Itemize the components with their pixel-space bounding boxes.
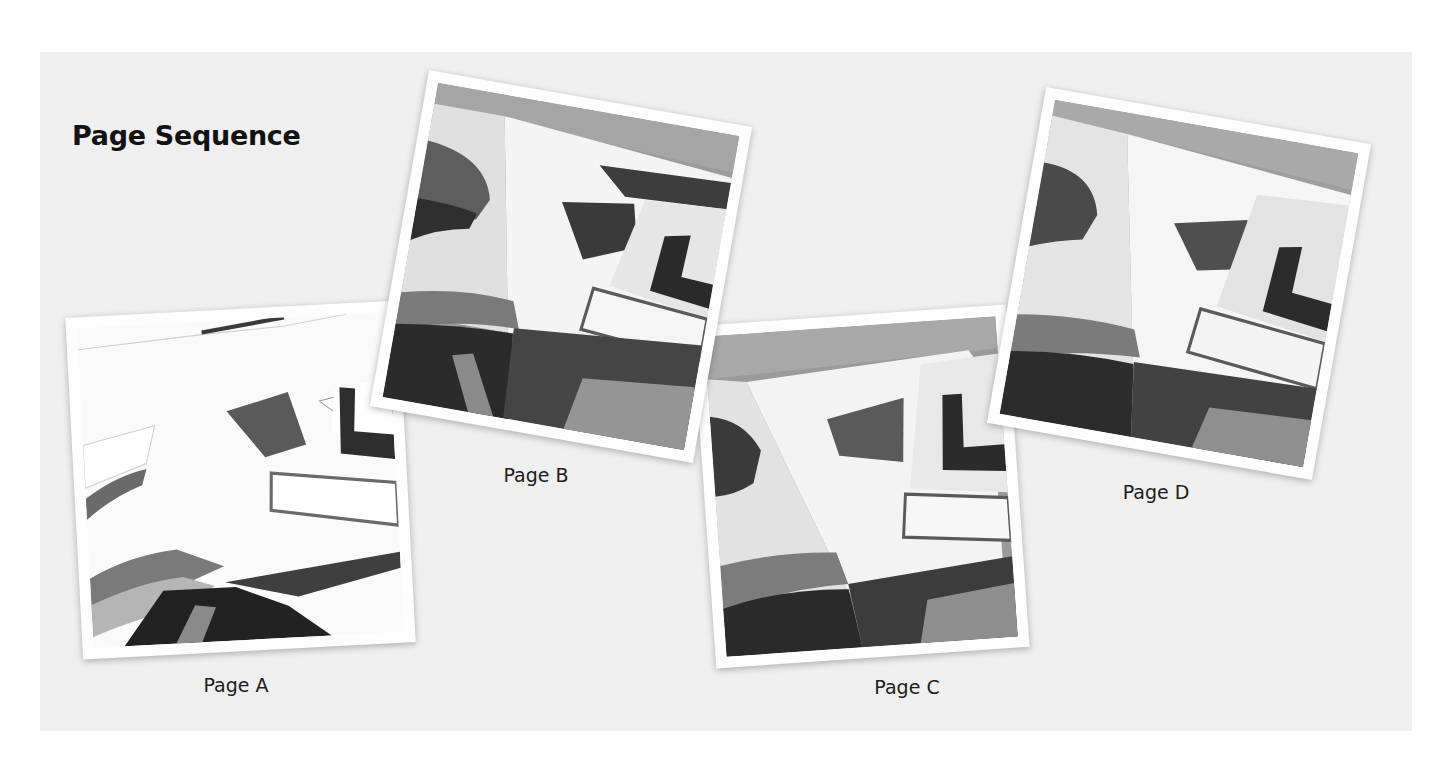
page-b-thumbnail[interactable] xyxy=(370,70,752,463)
page-title: Page Sequence xyxy=(72,120,301,151)
page-a-label: Page A xyxy=(203,674,268,696)
page-b-label: Page B xyxy=(503,464,568,486)
page-a-thumbnail[interactable] xyxy=(65,301,415,660)
page-d-label: Page D xyxy=(1123,481,1190,503)
books-photo-b xyxy=(383,83,740,450)
page-d-thumbnail[interactable] xyxy=(987,87,1371,480)
books-photo-a xyxy=(77,312,404,648)
page-c-thumbnail[interactable] xyxy=(692,304,1029,668)
books-photo-d xyxy=(1000,100,1359,468)
page-c-label: Page C xyxy=(874,676,939,698)
books-photo-c xyxy=(704,316,1018,657)
